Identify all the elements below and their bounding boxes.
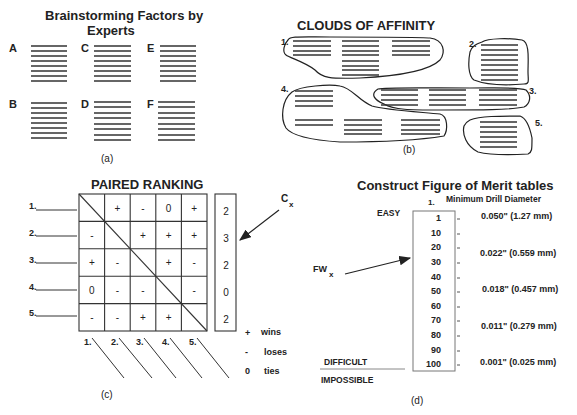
cell-5-4: + [166,312,172,323]
matrix-diagonal [79,194,207,331]
cell-5-2: - [116,312,119,323]
legend-label-ties: ties [264,366,280,376]
cell-1-5: + [191,203,197,214]
scale-10: 10 [431,228,441,238]
score-4: 0 [223,287,229,298]
cloud-5-lines [480,122,517,147]
scale-60: 60 [431,301,441,311]
column-labels: 1. 2. 3. 4. 5. [84,337,197,347]
cloud-label-3: 3. [529,86,537,96]
expert-e-lines [160,46,196,81]
row-label-3: 3. [29,255,37,265]
cloud-label-1: 1. [281,37,289,47]
legend-symbol-wins: + [245,328,250,338]
row-label-1: 1. [29,201,37,211]
col-label-3: 3. [136,337,144,347]
panel-c-title: PAIRED RANKING [91,177,203,192]
col-label-5: 5. [189,337,197,347]
merit-tick-marks [457,219,460,365]
panel-b-title: CLOUDS OF AFFINITY [297,18,436,33]
drill-diameter-values: 0.050" (1.27 mm) 0.022" (0.559 mm) 0.018… [480,211,558,367]
ranking-legend: + wins - loses 0 ties [245,327,287,376]
figure-canvas: Brainstorming Factors by Experts A B C D… [0,0,577,415]
legend-label-loses: loses [264,347,287,357]
panel-a-title-line1: Brainstorming Factors by [45,8,204,23]
column-header: Minimum Drill Diameter [446,194,542,204]
row-label-5: 5. [29,308,37,318]
impossible-label: IMPOSSIBLE [321,375,374,385]
cell-4-5: - [193,285,196,296]
cell-4-1: 0 [89,285,95,296]
fwx-label-sub: x [329,270,334,279]
legend-label-wins: wins [260,327,281,337]
row-label-2: 2. [29,228,37,238]
difficult-label: DIFFICULT [324,357,368,367]
col-label-2: 2. [111,337,119,347]
cell-5-3: + [140,312,146,323]
legend-symbol-loses: - [245,347,248,357]
legend-symbol-ties: 0 [245,366,250,376]
panel-d-figure-of-merit: Construct Figure of Merit tables 1. Mini… [313,178,558,406]
panel-d-title: Construct Figure of Merit tables [357,178,553,193]
scale-20: 20 [431,242,441,252]
easy-label: EASY [377,208,400,218]
panel-b-caption: (b) [403,144,415,155]
cell-2-3: + [140,230,146,241]
cx-label: C [281,193,288,204]
scale-30: 30 [431,257,441,267]
ranking-matrix-grid [79,194,207,331]
scale-90: 90 [431,345,441,355]
drill-value-5: 0.001" (0.025 mm) [480,357,556,367]
cell-2-1: - [90,230,93,241]
cell-2-4: + [166,230,172,241]
row-label-4: 4. [29,282,37,292]
cell-1-3: - [141,203,144,214]
panel-a-brainstorming: Brainstorming Factors by Experts A B C D… [9,8,204,164]
panel-c-caption: (c) [101,389,113,400]
drill-value-3: 0.018" (0.457 mm) [482,284,558,294]
cell-5-1: - [90,312,93,323]
expert-label-f: F [147,98,154,110]
scale-1: 1 [436,213,441,223]
scale-40: 40 [431,272,441,282]
fwx-arrow-icon [345,258,410,274]
cell-3-4: + [166,257,172,268]
cell-4-3: - [141,285,144,296]
score-1: 2 [223,206,229,217]
cell-3-1: + [89,257,95,268]
expert-label-d: D [81,98,89,110]
cell-4-2: - [116,285,119,296]
panel-d-caption: (d) [411,395,423,406]
cell-1-4: 0 [166,203,172,214]
scale-100: 100 [426,359,441,369]
panel-a-title-line2: Experts [87,23,135,38]
col-label-1: 1. [84,337,92,347]
cell-3-5: - [193,257,196,268]
expert-f-lines [158,102,195,140]
cell-3-2: - [116,257,119,268]
expert-a-lines [31,46,67,81]
cloud-label-5: 5. [535,118,543,128]
merit-scale-values: 1 10 20 30 40 50 60 70 80 90 100 [426,213,441,369]
fwx-label: FW [313,264,327,274]
score-3: 2 [223,260,229,271]
score-2: 3 [223,233,229,244]
cloud-3-lines [381,90,517,105]
col-label-4: 4. [162,337,170,347]
cloud-label-4: 4. [281,84,289,94]
affinity-cloud-3 [374,88,530,110]
cell-2-5: + [191,230,197,241]
drill-value-4: 0.011" (0.279 mm) [481,321,557,331]
scale-70: 70 [431,315,441,325]
expert-label-c: C [81,42,89,54]
expert-label-e: E [147,42,154,54]
scale-80: 80 [431,330,441,340]
cx-label-sub: x [289,200,294,209]
panel-b-clouds: CLOUDS OF AFFINITY 1. 2. 3. [281,18,543,155]
expert-c-lines [94,46,131,81]
column-index: 1. [428,198,435,207]
cloud-label-2: 2. [469,39,477,49]
cloud-2-lines [481,45,518,80]
expert-label-b: B [9,98,17,110]
expert-d-lines [94,102,131,140]
